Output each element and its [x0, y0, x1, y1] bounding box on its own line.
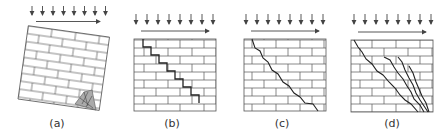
panel-d [351, 14, 433, 112]
panel-b [134, 14, 216, 111]
wall-c [244, 39, 326, 111]
panel-a [18, 6, 110, 110]
tilted-wall [18, 26, 110, 111]
panel-c [244, 14, 326, 111]
panel-label-b: (b) [164, 117, 180, 130]
panel-label-c: (c) [275, 117, 290, 130]
masonry-failure-diagram [0, 0, 444, 135]
vertical-load-arrows [32, 6, 106, 15]
panel-label-a: (a) [49, 117, 64, 130]
panel-label-d: (d) [384, 117, 400, 130]
